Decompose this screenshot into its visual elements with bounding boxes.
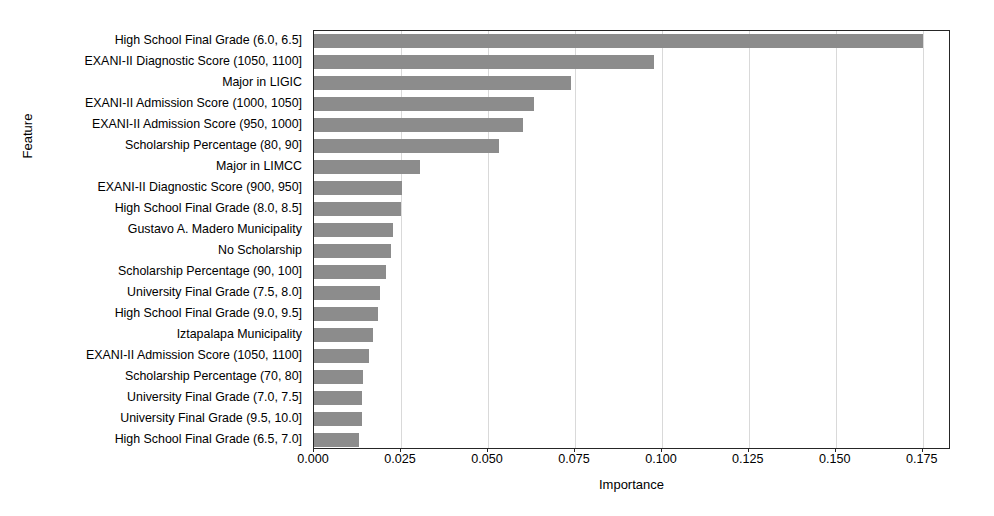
y-axis-tick-labels: High School Final Grade (6.0, 6.5]EXANI-… (0, 30, 308, 449)
bar[interactable] (314, 34, 923, 48)
bars-group (314, 31, 949, 448)
x-axis-title: Importance (313, 477, 950, 492)
bar[interactable] (314, 97, 534, 111)
y-tick-label: EXANI-II Diagnostic Score (1050, 1100] (85, 51, 302, 72)
y-tick-label: EXANI-II Admission Score (1050, 1100] (86, 344, 302, 365)
bar[interactable] (314, 286, 380, 300)
bar-row (314, 73, 951, 94)
bar[interactable] (314, 118, 523, 132)
x-tick-label: 0.025 (384, 452, 416, 466)
bar[interactable] (314, 139, 499, 153)
x-tick-label: 0.075 (558, 452, 590, 466)
bar-row (314, 261, 951, 282)
y-tick-label: Scholarship Percentage (80, 90] (125, 135, 302, 156)
bar-row (314, 345, 951, 366)
y-tick-label: University Final Grade (7.5, 8.0] (127, 281, 302, 302)
y-tick-label: Gustavo A. Madero Municipality (128, 219, 302, 240)
x-tick-mark (835, 448, 836, 452)
figure-canvas: Feature High School Final Grade (6.0, 6.… (0, 0, 994, 516)
bar-row (314, 366, 951, 387)
bar-row (314, 94, 951, 115)
bar[interactable] (314, 55, 654, 69)
x-tick-label: 0.100 (645, 452, 677, 466)
x-tick-mark (661, 448, 662, 452)
bar[interactable] (314, 433, 359, 447)
y-tick-label: Iztapalapa Municipality (177, 323, 302, 344)
y-tick-label: High School Final Grade (9.0, 9.5] (115, 302, 302, 323)
bar-row (314, 303, 951, 324)
x-tick-mark (487, 448, 488, 452)
bar[interactable] (314, 76, 571, 90)
y-tick-label: EXANI-II Admission Score (950, 1000] (92, 114, 302, 135)
bar[interactable] (314, 202, 401, 216)
x-tick-label: 0.050 (471, 452, 503, 466)
x-tick-label: 0.150 (819, 452, 851, 466)
bar-row (314, 115, 951, 136)
bar[interactable] (314, 328, 373, 342)
bar[interactable] (314, 265, 386, 279)
bar-row (314, 282, 951, 303)
bar-row (314, 178, 951, 199)
bar-row (314, 429, 951, 450)
x-tick-mark (313, 448, 314, 452)
bar-row (314, 136, 951, 157)
bar-row (314, 157, 951, 178)
x-tick-label: 0.125 (732, 452, 764, 466)
bar-row (314, 199, 951, 220)
x-tick-label: 0.000 (297, 452, 329, 466)
bar-row (314, 220, 951, 241)
bar-row (314, 387, 951, 408)
bar[interactable] (314, 391, 362, 405)
bar[interactable] (314, 370, 363, 384)
x-tick-mark (400, 448, 401, 452)
bar[interactable] (314, 223, 393, 237)
x-tick-label: 0.175 (906, 452, 938, 466)
y-tick-label: University Final Grade (9.5, 10.0] (120, 407, 302, 428)
bar-row (314, 241, 951, 262)
x-tick-mark (748, 448, 749, 452)
bar[interactable] (314, 181, 402, 195)
bar-row (314, 52, 951, 73)
bar[interactable] (314, 349, 369, 363)
x-axis-tick-labels: 0.0000.0250.0500.0750.1000.1250.1500.175 (313, 452, 950, 472)
y-tick-label: High School Final Grade (8.0, 8.5] (115, 198, 302, 219)
y-tick-label: High School Final Grade (6.5, 7.0] (115, 428, 302, 449)
y-tick-label: Major in LIGIC (222, 72, 302, 93)
bar-row (314, 324, 951, 345)
bar[interactable] (314, 160, 420, 174)
bar[interactable] (314, 244, 391, 258)
y-tick-label: High School Final Grade (6.0, 6.5] (115, 30, 302, 51)
bar-row (314, 408, 951, 429)
x-tick-mark (922, 448, 923, 452)
y-tick-label: EXANI-II Admission Score (1000, 1050] (85, 93, 302, 114)
bar[interactable] (314, 412, 362, 426)
plot-area (313, 30, 950, 449)
x-tick-mark (574, 448, 575, 452)
y-tick-label: Scholarship Percentage (90, 100] (118, 260, 302, 281)
y-tick-label: Scholarship Percentage (70, 80] (125, 365, 302, 386)
y-tick-label: University Final Grade (7.0, 7.5] (127, 386, 302, 407)
y-tick-label: EXANI-II Diagnostic Score (900, 950] (97, 177, 302, 198)
bar-row (314, 31, 951, 52)
y-tick-label: No Scholarship (218, 240, 302, 261)
y-tick-label: Major in LIMCC (216, 156, 302, 177)
bar[interactable] (314, 307, 378, 321)
